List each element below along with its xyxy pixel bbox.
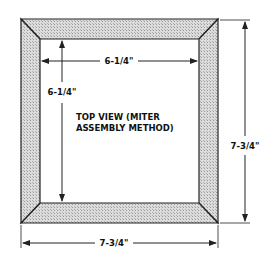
- frame-right-piece: [199, 19, 218, 223]
- title-line-1: TOP VIEW (MITER: [76, 112, 160, 122]
- title-line-2: ASSEMBLY METHOD): [76, 123, 174, 133]
- outer-height-label: 7-3/4": [231, 141, 260, 151]
- frame-bottom-piece: [21, 203, 218, 223]
- frame-diagram: 6-1/4" 6-1/4" TOP VIEW (MITER ASSEMBLY M…: [0, 0, 272, 268]
- frame-left-piece: [21, 19, 40, 223]
- outer-height-dimension: [220, 20, 250, 223]
- frame-top-piece: [21, 19, 218, 39]
- outer-width-label: 7-3/4": [100, 238, 129, 248]
- inner-width-label: 6-1/4": [105, 56, 134, 66]
- inner-height-label: 6-1/4": [48, 87, 77, 97]
